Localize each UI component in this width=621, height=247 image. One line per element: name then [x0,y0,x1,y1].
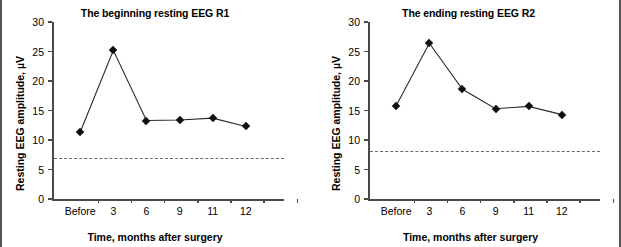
y-tick-label: 5 [14,165,44,175]
x-tick [164,199,166,203]
x-tick-label: 12 [224,206,268,216]
x-tick [414,199,416,203]
x-tick [546,199,548,203]
x-axis-label-r2: Time, months after surgery [310,231,621,243]
x-axis-line [368,199,600,201]
y-tick-label: 0 [14,194,44,204]
y-tick-label: 30 [330,17,360,27]
y-tick-label: 20 [14,76,44,86]
x-axis-line [52,199,284,201]
y-tick-label: 25 [330,47,360,57]
x-axis-label-r1: Time, months after surgery [0,231,310,243]
x-tick [230,199,232,203]
y-tick-label: 20 [330,76,360,86]
plot-area-r2: 051015202530Before3691112 [368,22,600,199]
x-tick [579,199,581,203]
chart-panel-r1: The beginning resting EEG R1 Resting EEG… [0,0,310,247]
figure-panels: The beginning resting EEG R1 Resting EEG… [0,0,621,247]
series-line [52,22,284,199]
x-tick [297,199,299,203]
chart-title-r1: The beginning resting EEG R1 [0,7,310,19]
y-tick-label: 15 [14,106,44,116]
y-tick-label: 15 [330,106,360,116]
y-tick-label: 10 [330,135,360,145]
y-tick-label: 0 [330,194,360,204]
x-tick [480,199,482,203]
y-tick-label: 10 [14,135,44,145]
plot-area-r1: 051015202530Before3691112 [52,22,284,199]
x-tick [197,199,199,203]
x-tick-label: 12 [540,206,584,216]
x-tick [613,199,615,203]
x-tick [513,199,515,203]
y-tick-label: 25 [14,47,44,57]
chart-panel-r2: The ending resting EEG R2 Resting EEG am… [310,0,621,247]
y-tick-label: 30 [14,17,44,27]
x-tick [447,199,449,203]
x-tick [263,199,265,203]
x-tick [131,199,133,203]
series-line [368,22,600,199]
y-tick-label: 5 [330,165,360,175]
x-tick [98,199,100,203]
